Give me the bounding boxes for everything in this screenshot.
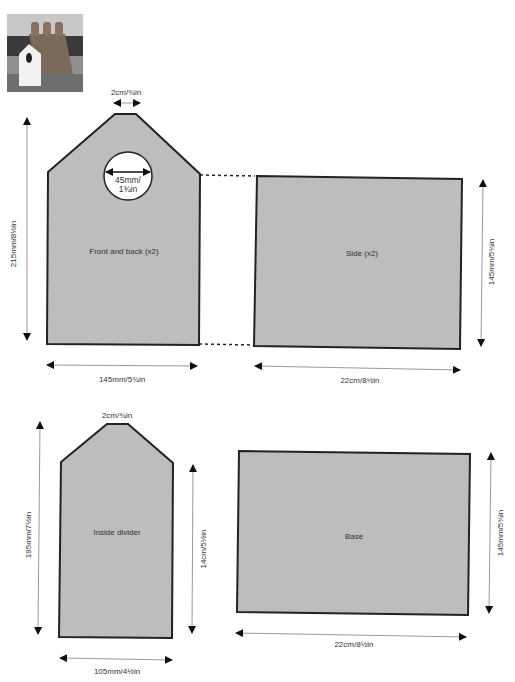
front-back-top-width: 2cm/¾in <box>111 88 141 97</box>
side-label: Side (x2) <box>346 249 378 258</box>
front-back-width: 145mm/5¾in <box>99 375 145 384</box>
inside-divider-top-width: 2cm/¾in <box>102 411 132 420</box>
inside-divider-piece: Inside divider 2cm/¾in 195mm/7½in 14cm/5… <box>24 411 208 676</box>
front-back-piece: 45mm/ 1¾in Front and back (x2) 2cm/¾in 2… <box>9 88 200 384</box>
base-height: 145mm/5¾in <box>496 510 505 556</box>
fold-guide-top <box>200 175 255 176</box>
side-height: 145mm/5¾in <box>487 239 496 285</box>
base-width: 22cm/8½in <box>334 640 373 649</box>
base-label: Base <box>345 532 364 541</box>
inside-divider-label: Inside divider <box>93 528 140 537</box>
inside-divider-width: 105mm/4½in <box>94 667 140 676</box>
front-back-height: 215mm/8½in <box>9 221 18 267</box>
front-back-label: Front and back (x2) <box>89 247 159 256</box>
side-width: 22cm/8½in <box>340 376 379 385</box>
cutting-diagram: 45mm/ 1¾in Front and back (x2) 2cm/¾in 2… <box>0 0 515 682</box>
inside-divider-height: 195mm/7½in <box>24 512 33 558</box>
base-piece: Base 145mm/5¾in 22cm/8½in <box>236 451 505 649</box>
hole-label-2: 1¾in <box>119 184 138 194</box>
side-piece: Side (x2) 145mm/5¾in 22cm/8½in <box>254 176 496 385</box>
fold-guide-bottom <box>199 344 254 345</box>
inside-divider-side-height: 14cm/5½in <box>199 529 208 568</box>
